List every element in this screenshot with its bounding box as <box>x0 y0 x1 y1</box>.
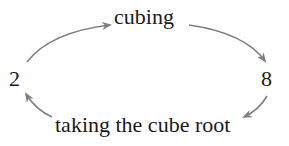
arrow-bottom-to-left <box>26 94 52 117</box>
arrow-cubing-to-right <box>189 25 265 61</box>
arrow-right-to-bottom <box>244 96 267 117</box>
edge-label-cube-root: taking the cube root <box>55 114 230 136</box>
node-two: 2 <box>9 68 20 90</box>
node-eight: 8 <box>261 68 272 90</box>
edge-label-cubing: cubing <box>114 6 174 28</box>
cycle-diagram: cubing 2 8 taking the cube root <box>0 0 289 146</box>
arrow-left-to-cubing <box>27 25 110 62</box>
